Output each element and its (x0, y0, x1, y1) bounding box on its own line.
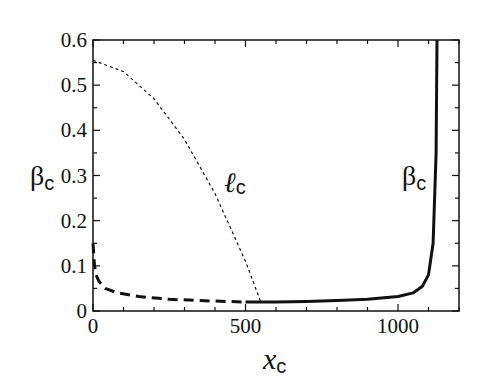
x-tick-label: 0 (88, 314, 99, 338)
y-tick-label: 0.4 (61, 118, 88, 142)
axis-ticks: 00.10.20.30.40.50.605001000 (61, 28, 459, 338)
y-tick-label: 0.2 (61, 209, 87, 233)
y-tick-label: 0.1 (61, 254, 87, 278)
lc-annotation: ℓc (224, 167, 246, 198)
x-tick-label: 1000 (377, 314, 419, 338)
x-tick-label: 500 (230, 314, 262, 338)
y-tick-label: 0.6 (61, 28, 87, 52)
chart: 00.10.20.30.40.50.605001000 βcxcℓcβc (0, 0, 481, 391)
axis-labels: βcxcℓcβc (30, 160, 426, 377)
y-tick-label: 0 (77, 299, 88, 323)
x-axis-label: xc (262, 342, 286, 377)
bc-annotation: βc (402, 160, 426, 194)
y-tick-label: 0.3 (61, 164, 87, 188)
series-line (93, 243, 246, 302)
y-axis-label: βc (30, 160, 54, 194)
data-series (93, 40, 437, 302)
y-tick-label: 0.5 (61, 73, 87, 97)
